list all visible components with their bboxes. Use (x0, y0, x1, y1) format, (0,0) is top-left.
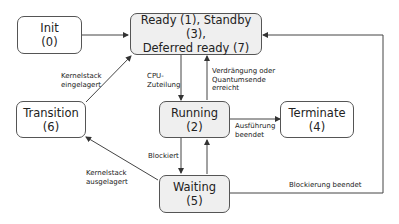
state-terminate-name: Terminate (289, 106, 346, 120)
label-verdraengung: Verdrängung oder Quantumsende erreicht (212, 67, 275, 93)
state-running: Running (2) (159, 101, 230, 138)
state-ready: Ready (1), Standby (3), Deferred ready (… (130, 13, 262, 55)
label-kernelstack-ausgelagert: Kernelstack ausgelagert (86, 169, 128, 186)
state-init-name: Init (40, 21, 58, 35)
state-terminate-number: (4) (309, 120, 325, 134)
label-line: Kernelstack (61, 72, 102, 81)
state-ready-name-2: Deferred ready (7) (143, 41, 250, 55)
state-init-number: (0) (41, 35, 57, 49)
state-running-number: (2) (186, 120, 202, 134)
label-line: Blockierung beendet (289, 181, 362, 190)
state-ready-name: Ready (1), Standby (3), (131, 13, 261, 41)
state-waiting-number: (5) (186, 194, 202, 208)
label-line: Blockiert (148, 152, 179, 161)
state-transition: Transition (6) (16, 101, 86, 138)
label-line: beendet (235, 131, 275, 140)
label-line: Zuteilung (147, 81, 181, 90)
label-line: Ausführung (235, 122, 275, 131)
label-blockiert: Blockiert (148, 152, 179, 161)
label-line: Quantumsende (212, 76, 275, 85)
label-line: erreicht (212, 84, 275, 93)
label-line: ausgelagert (86, 178, 128, 187)
label-kernelstack-eingelagert: Kernelstack eingelagert (61, 72, 102, 89)
label-line: eingelagert (61, 81, 102, 90)
state-transition-name: Transition (23, 106, 79, 120)
state-waiting: Waiting (5) (159, 175, 230, 213)
state-running-name: Running (171, 106, 218, 120)
label-line: Verdrängung oder (212, 67, 275, 76)
state-transition-number: (6) (43, 120, 59, 134)
label-ausfuehrung-beendet: Ausführung beendet (235, 122, 275, 139)
state-terminate: Terminate (4) (280, 101, 354, 138)
label-blockierung-beendet: Blockierung beendet (289, 181, 362, 190)
label-cpu-zuteilung: CPU- Zuteilung (147, 72, 181, 89)
label-line: Kernelstack (86, 169, 128, 178)
label-line: CPU- (147, 72, 181, 81)
state-waiting-name: Waiting (173, 180, 216, 194)
state-init: Init (0) (17, 16, 82, 54)
